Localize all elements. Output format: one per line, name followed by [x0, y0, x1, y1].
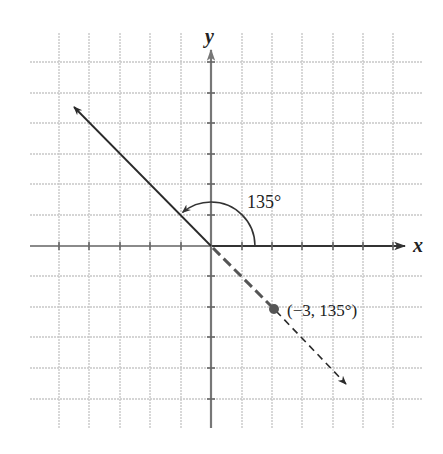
- opposite-ray-dashed: [213, 248, 273, 308]
- axis-ticks: [59, 62, 393, 399]
- y-axis-label: y: [203, 25, 214, 48]
- polar-diagram: y x 135° (−3, 135°): [0, 0, 443, 454]
- x-axis-label: x: [412, 234, 423, 256]
- angle-arc: [183, 202, 256, 246]
- diagram-canvas: y x 135° (−3, 135°): [0, 0, 443, 454]
- opposite-ray-dashed-ext: [276, 311, 346, 384]
- grid: [30, 33, 423, 428]
- point-label: (−3, 135°): [287, 301, 357, 320]
- axes: [30, 50, 405, 428]
- point-marker: [269, 304, 279, 314]
- terminal-ray-135: [74, 107, 211, 246]
- angle-label: 135°: [247, 192, 281, 212]
